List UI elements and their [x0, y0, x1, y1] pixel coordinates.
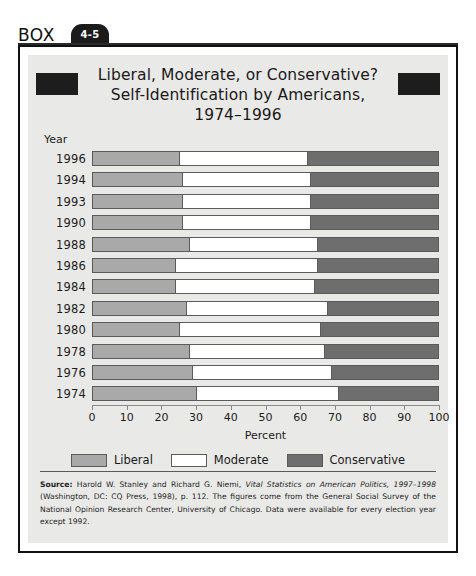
bar-segment-conservative [331, 366, 438, 379]
bar-segment-liberal [93, 259, 175, 272]
bar-segment-liberal [93, 302, 186, 315]
x-axis [92, 405, 439, 406]
source-publication-title: Vital Statistics on American Politics, 1… [245, 480, 436, 489]
stacked-bar [92, 258, 439, 273]
bar-row: 1996 [28, 149, 448, 170]
legend-item: Moderate [171, 453, 269, 467]
bar-segment-liberal [93, 280, 175, 293]
bar-segment-conservative [317, 259, 438, 272]
bar-row: 1976 [28, 363, 448, 384]
chart-panel: Liberal, Moderate, or Conservative? Self… [28, 55, 448, 543]
bar-segment-conservative [317, 238, 438, 251]
bar-segment-liberal [93, 366, 192, 379]
bar-segment-moderate [186, 302, 328, 315]
x-axis-tick-label: 60 [285, 411, 315, 424]
bar-row-year-label: 1980 [42, 323, 86, 337]
bar-row: 1986 [28, 256, 448, 277]
bar-segment-conservative [310, 195, 438, 208]
bar-row-year-label: 1974 [42, 387, 86, 401]
chart-legend: LiberalModerateConservative [28, 453, 448, 467]
bar-segment-moderate [192, 366, 330, 379]
source-text-a: Harold W. Stanley and Richard G. Niemi, [73, 480, 246, 489]
stacked-bar [92, 386, 439, 401]
y-axis-title: Year [44, 133, 67, 146]
chart-title-line-2: Self-Identification by Americans, [78, 85, 398, 105]
x-axis-tick-label: 40 [216, 411, 246, 424]
x-axis-tick-label: 100 [424, 411, 454, 424]
bar-segment-moderate [175, 259, 317, 272]
x-axis-tick [404, 405, 405, 410]
chart-title-line-1: Liberal, Moderate, or Conservative? [78, 65, 398, 85]
bar-row-year-label: 1978 [42, 345, 86, 359]
legend-swatch-liberal [71, 454, 107, 467]
x-axis-tick-label: 80 [355, 411, 385, 424]
stacked-bar [92, 279, 439, 294]
decorative-block-right [398, 73, 440, 95]
stacked-bar [92, 322, 439, 337]
bar-segment-conservative [314, 280, 438, 293]
chart-page: BOX 4-5 Liberal, Moderate, or Conservati… [0, 0, 476, 576]
bar-segment-moderate [182, 216, 310, 229]
bar-row: 1974 [28, 384, 448, 405]
chart-title: Liberal, Moderate, or Conservative? Self… [78, 65, 398, 125]
bar-segment-liberal [93, 238, 189, 251]
chart-frame: Liberal, Moderate, or Conservative? Self… [18, 45, 458, 553]
bar-row-year-label: 1988 [42, 238, 86, 252]
x-axis-tick [231, 405, 232, 410]
bar-segment-moderate [179, 152, 307, 165]
bar-segment-liberal [93, 152, 179, 165]
legend-label: Conservative [330, 453, 406, 467]
chart-title-line-3: 1974–1996 [78, 105, 398, 125]
stacked-bar [92, 194, 439, 209]
stacked-bar [92, 151, 439, 166]
bar-segment-conservative [338, 387, 438, 400]
x-axis-tick-label: 70 [320, 411, 350, 424]
bar-segment-liberal [93, 323, 179, 336]
bar-row-year-label: 1990 [42, 216, 86, 230]
bar-row-year-label: 1994 [42, 173, 86, 187]
bar-segment-moderate [175, 280, 313, 293]
stacked-bar [92, 172, 439, 187]
stacked-bar [92, 301, 439, 316]
bar-segment-liberal [93, 173, 182, 186]
x-axis-tick [439, 405, 440, 410]
legend-swatch-moderate [171, 454, 207, 467]
x-axis-tick [196, 405, 197, 410]
bar-row: 1993 [28, 192, 448, 213]
source-divider [40, 471, 436, 472]
source-label: Source: [40, 480, 73, 489]
bar-segment-conservative [320, 323, 438, 336]
x-axis-tick [266, 405, 267, 410]
box-word: BOX [18, 25, 55, 45]
bar-row: 1978 [28, 342, 448, 363]
bar-row: 1982 [28, 299, 448, 320]
source-note: Source: Harold W. Stanley and Richard G.… [40, 479, 436, 529]
bar-segment-conservative [310, 216, 438, 229]
legend-label: Liberal [114, 453, 153, 467]
bar-row: 1994 [28, 170, 448, 191]
box-number-label: 4-5 [71, 24, 109, 45]
x-axis-tick-label: 10 [112, 411, 142, 424]
x-axis-tick [370, 405, 371, 410]
bar-segment-moderate [189, 345, 324, 358]
x-axis-tick [92, 405, 93, 410]
x-axis-tick-label: 20 [146, 411, 176, 424]
bar-segment-moderate [189, 238, 317, 251]
x-axis-tick-label: 50 [251, 411, 281, 424]
bar-segment-conservative [307, 152, 438, 165]
legend-label: Moderate [214, 453, 269, 467]
x-axis-tick [300, 405, 301, 410]
bar-segment-moderate [182, 195, 310, 208]
x-axis-tick-label: 0 [77, 411, 107, 424]
bar-row-year-label: 1976 [42, 366, 86, 380]
stacked-bar [92, 215, 439, 230]
bar-row: 1988 [28, 235, 448, 256]
stacked-bar [92, 344, 439, 359]
bar-segment-conservative [327, 302, 438, 315]
x-axis-tick-label: 90 [389, 411, 419, 424]
decorative-block-left [36, 73, 78, 95]
plot-area: Year 19961994199319901988198619841982198… [28, 133, 448, 483]
bar-segment-liberal [93, 345, 189, 358]
x-axis-tick [335, 405, 336, 410]
x-axis-tick [161, 405, 162, 410]
